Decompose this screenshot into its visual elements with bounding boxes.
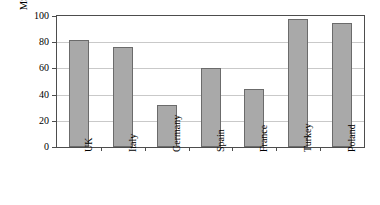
x-tick-label: Turkey [302, 123, 313, 152]
bar [113, 47, 133, 147]
y-tick-label: 60 [39, 61, 49, 74]
x-tick-label: Spain [215, 129, 226, 152]
y-tick-mark [52, 121, 57, 122]
x-tick-label: UK [83, 138, 94, 152]
y-axis-title: MSW Landfilled (%) [16, 0, 32, 31]
bar [69, 40, 89, 147]
y-tick-label: 100 [34, 9, 49, 22]
x-axis-labels: UKItalyGermanySpainFranceTurkeyPoland [56, 152, 363, 204]
bar-chart: MSW Landfilled (%) 020406080100 UKItalyG… [0, 0, 380, 205]
y-axis-title-label: MSW Landfilled (%) [16, 0, 32, 31]
x-tick-mark [101, 147, 102, 151]
x-tick-mark [276, 147, 277, 151]
y-tick-label: 40 [39, 88, 49, 101]
x-tick-label: France [258, 125, 269, 152]
x-tick-mark [145, 147, 146, 151]
y-tick-mark [52, 147, 57, 148]
x-tick-label: Germany [171, 115, 182, 152]
x-tick-mark [232, 147, 233, 151]
y-tick-mark [52, 68, 57, 69]
plot-area: 020406080100 [56, 15, 365, 148]
y-tick-mark [52, 95, 57, 96]
x-tick-mark [189, 147, 190, 151]
x-tick-mark [320, 147, 321, 151]
y-tick-mark [52, 16, 57, 17]
y-tick-mark [52, 42, 57, 43]
y-tick-label: 0 [44, 140, 49, 153]
y-tick-label: 20 [39, 114, 49, 127]
x-tick-label: Poland [346, 124, 357, 152]
x-tick-label: Italy [127, 134, 138, 152]
y-tick-label: 80 [39, 35, 49, 48]
gridline [57, 42, 364, 43]
